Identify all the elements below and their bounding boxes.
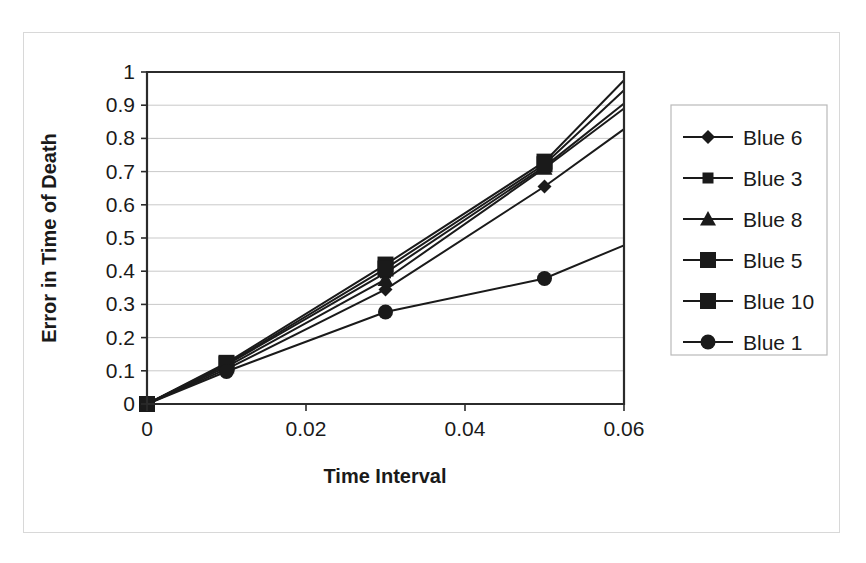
data-point [378, 305, 393, 320]
x-tick-label: 0.06 [604, 417, 645, 440]
legend-label: Blue 5 [743, 249, 803, 272]
gridlines [147, 105, 624, 371]
y-tick-label: 0.4 [106, 259, 136, 282]
data-point [219, 364, 234, 379]
legend-marker-large-square [700, 252, 716, 268]
legend-marker-square [703, 173, 714, 184]
data-point [538, 180, 552, 194]
y-tick-label: 0.1 [106, 359, 135, 382]
data-point [378, 261, 394, 277]
y-tick-label: 1 [123, 60, 135, 83]
x-axis-title: Time Interval [323, 465, 446, 487]
x-tick-label: 0.02 [286, 417, 327, 440]
y-tick-label: 0.3 [106, 292, 135, 315]
chart-page: 00.10.20.30.40.50.60.70.80.91 00.020.040… [0, 0, 866, 563]
series-group [139, 80, 624, 412]
y-axis-tick-labels: 00.10.20.30.40.50.60.70.80.91 [106, 60, 136, 415]
chart-legend: Blue 6Blue 3Blue 8Blue 5Blue 10Blue 1 [671, 105, 827, 355]
legend-marker-circle [701, 335, 716, 350]
y-tick-label: 0 [123, 392, 135, 415]
series-blue-3 [142, 104, 625, 410]
legend-label: Blue 10 [743, 290, 814, 313]
legend-marker-large-square [700, 293, 716, 309]
legend-label: Blue 1 [743, 331, 803, 354]
legend-label: Blue 6 [743, 126, 803, 149]
series-blue-5 [139, 80, 624, 412]
y-tick-label: 0.8 [106, 126, 135, 149]
y-tick-label: 0.5 [106, 226, 135, 249]
y-axis-title: Error in Time of Death [38, 133, 60, 343]
y-tick-label: 0.2 [106, 326, 135, 349]
legend-label: Blue 3 [743, 167, 803, 190]
y-tick-label: 0.9 [106, 93, 135, 116]
chart-svg: 00.10.20.30.40.50.60.70.80.91 00.020.040… [0, 0, 866, 563]
data-point [537, 271, 552, 286]
data-point [537, 156, 553, 172]
x-tick-label: 0.04 [445, 417, 486, 440]
chart-figure: 00.10.20.30.40.50.60.70.80.91 00.020.040… [0, 0, 866, 563]
x-axis-tick-labels: 00.020.040.06 [141, 417, 644, 440]
legend-label: Blue 8 [743, 208, 803, 231]
y-tick-label: 0.6 [106, 193, 135, 216]
x-tick-label: 0 [141, 417, 153, 440]
y-tick-label: 0.7 [106, 160, 135, 183]
